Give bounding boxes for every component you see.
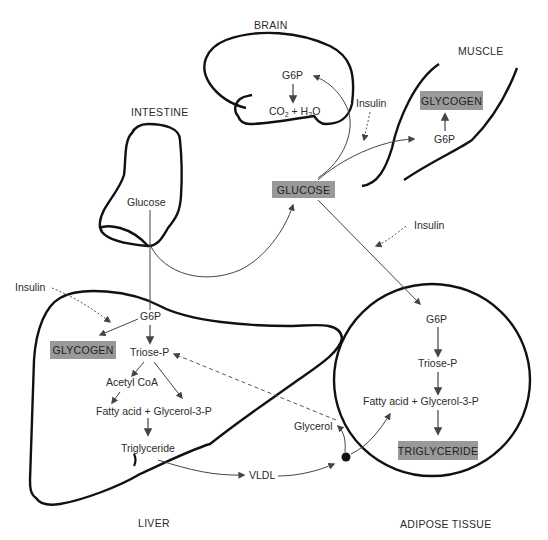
liver-triose-p: Triose-P [130, 347, 169, 358]
adipose-g6p: G6P [426, 314, 447, 325]
muscle-outline [362, 64, 439, 186]
liver-notch [134, 454, 136, 466]
muscle-outline-2 [404, 68, 517, 180]
liver-fatty-acid: Fatty acid + Glycerol-3-P [96, 406, 212, 417]
liver-outline [30, 291, 342, 505]
liver-triglyceride: Triglyceride [121, 443, 175, 454]
muscle-g6p: G6P [434, 134, 455, 145]
adipose-triglyceride-box: TRIGLYCERIDE [398, 441, 478, 460]
metabolism-diagram: BRAIN MUSCLE INTESTINE LIVER ADIPOSE TIS… [0, 0, 548, 540]
lipoprotein-lipase-dot [342, 453, 351, 462]
insulin-muscle: Insulin [356, 98, 386, 109]
liver-glycogen-box: GLYCOGEN [50, 341, 116, 359]
intestine-outline [100, 124, 182, 246]
liver-acetyl-coa: Acetyl CoA [106, 377, 158, 388]
liver-label: LIVER [138, 518, 170, 529]
adipose-label: ADIPOSE TISSUE [400, 519, 492, 530]
vldl-label: VLDL [249, 470, 275, 481]
blood-glucose-box: GLUCOSE [272, 181, 335, 198]
insulin-liver: Insulin [15, 282, 45, 293]
adipose-triose-p: Triose-P [418, 358, 457, 369]
brain-label: BRAIN [254, 20, 288, 31]
adipose-fatty-acid: Fatty acid + Glycerol-3-P [363, 396, 479, 407]
insulin-adipose: Insulin [414, 220, 444, 231]
intestine-label: INTESTINE [131, 107, 189, 118]
muscle-label: MUSCLE [458, 46, 504, 57]
glycerol-label: Glycerol [294, 421, 333, 432]
intestine-glucose: Glucose [127, 197, 166, 208]
brain-co2-h2o: CO2 + H2O [269, 106, 320, 118]
brain-g6p: G6P [282, 70, 303, 81]
liver-g6p: G6P [140, 311, 161, 322]
muscle-glycogen-box: GLYCOGEN [420, 91, 483, 110]
